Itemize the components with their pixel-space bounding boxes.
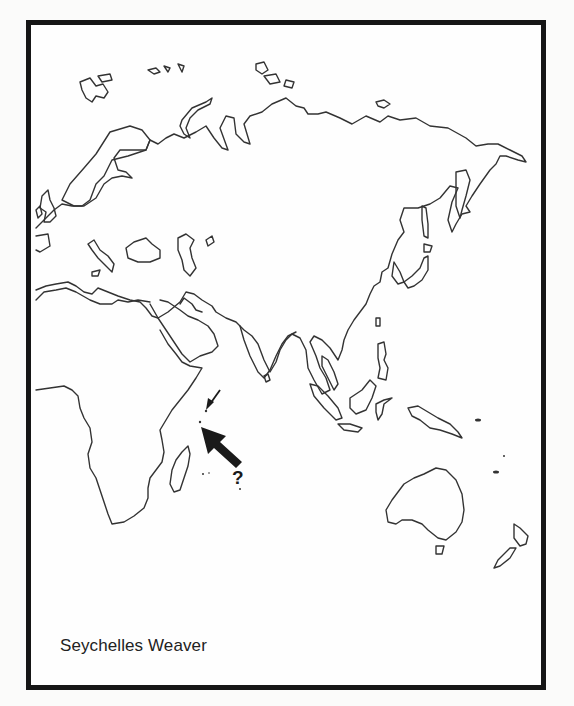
new-guinea — [408, 406, 462, 438]
sumatra — [310, 384, 342, 420]
borneo — [350, 380, 376, 414]
italy — [88, 240, 114, 272]
malay-peninsula — [322, 356, 338, 390]
franz-josef-land — [148, 64, 184, 74]
svalbard — [80, 74, 112, 102]
world-outline-map — [0, 0, 574, 706]
island-dot — [493, 471, 499, 474]
philippines — [378, 342, 388, 380]
island-dot — [475, 419, 481, 422]
great-britain — [40, 190, 56, 222]
ireland — [36, 206, 42, 218]
aral-sea — [206, 236, 214, 246]
new-zealand — [494, 524, 528, 568]
tasmania — [436, 546, 444, 554]
island-dot — [503, 455, 505, 457]
sri-lanka — [264, 374, 270, 382]
map-caption: Seychelles Weaver — [60, 636, 207, 656]
java — [338, 424, 362, 432]
korea — [392, 262, 404, 284]
caspian-sea — [178, 234, 196, 276]
new-siberian-islands — [376, 100, 390, 108]
australia — [386, 468, 464, 540]
iberia — [36, 234, 50, 252]
madagascar — [170, 446, 190, 492]
eurasia-coastline — [36, 98, 526, 394]
severnaya-zemlya — [256, 62, 294, 88]
black-sea — [126, 238, 160, 262]
small-arrow-icon — [206, 390, 220, 410]
seychelles-dot — [199, 421, 201, 423]
mascarene-dot — [202, 473, 204, 475]
scandinavia — [62, 126, 150, 206]
north-africa-coast — [36, 288, 150, 304]
large-arrow-icon — [201, 427, 242, 468]
mascarene-dot — [208, 472, 210, 474]
sulawesi — [376, 398, 392, 420]
sakhalin — [422, 206, 428, 238]
sicily — [92, 270, 100, 276]
africa — [36, 330, 202, 524]
seychelles-dot — [205, 410, 207, 412]
persian-gulf — [180, 298, 202, 312]
uncertain-range-marker: ? — [232, 467, 244, 489]
taiwan — [376, 318, 380, 326]
kamchatka — [456, 170, 470, 218]
japan — [404, 244, 432, 288]
